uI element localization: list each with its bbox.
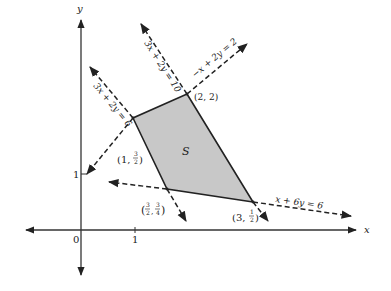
y-axis-label: y [76,3,83,14]
vertex-1-3-2 [132,117,135,120]
svg-text:(3,: (3, [232,212,245,223]
svg-text:4: 4 [156,209,160,216]
feasible-region-diagram: y x 0 1 1 S 3x + 2y = 10 3x + 2y = 6 −x … [0,0,391,291]
vertex-3-1-2 [252,201,255,204]
feasible-region-s [133,94,253,202]
svg-text:3: 3 [146,201,150,208]
line-x6y6-left [109,182,167,189]
svg-text:(1,: (1, [117,154,130,165]
line-3x2y6-lower [167,189,186,221]
x-axis-label: x [364,224,370,235]
equation-label-3x2y6: 3x + 2y = 6 [91,81,133,129]
svg-text:,: , [151,207,154,216]
svg-text:3: 3 [156,201,160,208]
svg-text:): ) [255,212,259,223]
svg-text:2: 2 [250,216,254,223]
svg-text:2: 2 [146,209,150,216]
vertex-label-3-2-3-4: ( 3 2 , 3 4 ) [141,201,165,217]
svg-text:2: 2 [134,158,138,165]
svg-text:3: 3 [134,150,138,157]
equation-label-x6y6: x + 6y = 6 [275,194,324,211]
equation-label-negx2y2: −x + 2y = 2 [190,36,239,80]
svg-text:1: 1 [250,208,254,215]
equation-label-3x2y10: 3x + 2y = 10 [142,39,183,95]
vertex-2-2 [186,93,189,96]
svg-text:): ) [139,154,143,165]
svg-text:): ) [161,204,165,217]
vertex-label-2-2: (2, 2) [194,92,218,102]
region-label-s: S [182,145,190,158]
vertex-label-3-1-2: (3, 1 2 ) [232,208,259,223]
y-tick-label-1: 1 [73,169,79,180]
x-tick-label-1: 1 [132,234,138,245]
diagram-canvas: y x 0 1 1 S 3x + 2y = 10 3x + 2y = 6 −x … [0,0,391,291]
vertex-label-1-3-2: (1, 3 2 ) [117,150,143,165]
origin-label: 0 [73,234,79,245]
svg-text:(: ( [141,204,145,217]
vertex-3-2-3-4 [166,188,169,191]
